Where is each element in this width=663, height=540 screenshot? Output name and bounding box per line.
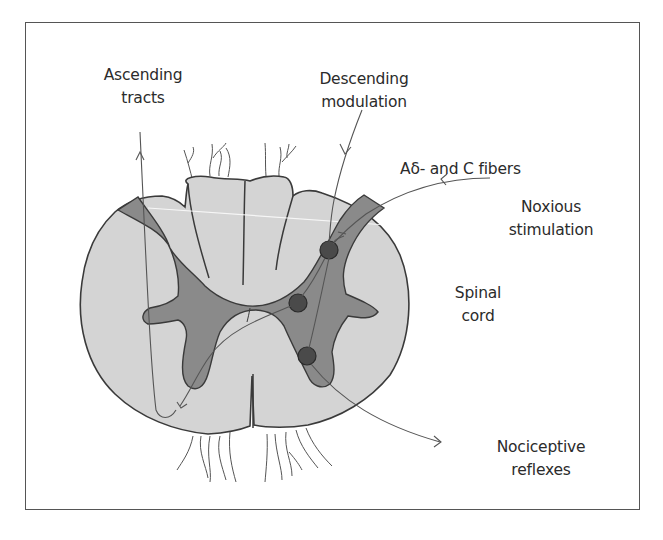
label-ascending-line2: tracts	[88, 87, 198, 110]
label-descending-line1: Descending	[303, 68, 425, 91]
label-spinal-line2: cord	[438, 305, 518, 328]
label-descending-modulation: Descending modulation	[303, 68, 425, 114]
label-reflexes-line2: reflexes	[482, 459, 600, 482]
ascending-arrowhead-icon	[136, 152, 144, 160]
interneuron-icon	[289, 294, 307, 312]
label-spinal-cord: Spinal cord	[438, 282, 518, 328]
label-fibers-text: Aδ- and C fibers	[400, 158, 521, 181]
label-descending-line2: modulation	[303, 91, 425, 114]
label-noxious-stimulation: Noxious stimulation	[496, 196, 606, 242]
label-reflexes-line1: Nociceptive	[482, 436, 600, 459]
figure-stage: Ascending tracts Descending modulation A…	[0, 0, 663, 540]
label-noxious-line2: stimulation	[496, 219, 606, 242]
ventral-rootlets	[177, 428, 332, 482]
dorsal-horn-neuron-icon	[320, 241, 338, 259]
label-fibers: Aδ- and C fibers	[400, 158, 521, 181]
label-noxious-line1: Noxious	[496, 196, 606, 219]
label-ascending-tracts: Ascending tracts	[88, 64, 198, 110]
label-nociceptive-reflexes: Nociceptive reflexes	[482, 436, 600, 482]
ventral-horn-neuron-icon	[298, 347, 316, 365]
label-ascending-line1: Ascending	[88, 64, 198, 87]
label-spinal-line1: Spinal	[438, 282, 518, 305]
